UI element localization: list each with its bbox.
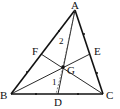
side-ab <box>11 10 75 94</box>
triangle-sides <box>11 10 103 94</box>
angle-label-2: 2 <box>59 36 64 46</box>
tick-af <box>58 30 60 32</box>
label-e: E <box>94 45 101 57</box>
centroid-point <box>61 65 65 69</box>
label-a: A <box>71 0 79 11</box>
tick-dc <box>77 93 79 95</box>
tick-ec <box>96 72 98 74</box>
label-b: B <box>0 89 7 101</box>
tick-fb <box>26 71 28 73</box>
angle-label-1: 1 <box>52 77 57 87</box>
tick-bd <box>35 93 37 95</box>
label-g: G <box>67 64 75 76</box>
tick-ae <box>83 33 85 35</box>
label-f: F <box>32 45 38 57</box>
label-d: D <box>54 96 62 108</box>
triangle-diagram: A B C D E F G 2 1 <box>0 0 120 109</box>
label-c: C <box>106 89 113 101</box>
